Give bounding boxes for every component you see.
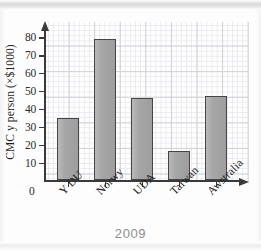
y-axis-title: CMC y person (×$1000)	[4, 22, 20, 182]
y-tick-label-50: 50	[25, 85, 36, 97]
y-tick-10	[39, 163, 45, 164]
scan-bottom-edge-band	[0, 243, 261, 250]
y-tick-80	[39, 37, 45, 38]
y-tick-50	[39, 91, 45, 92]
y-axis-arrowhead	[41, 21, 49, 31]
y-tick-30	[39, 127, 45, 128]
chart-caption: 2009	[0, 226, 261, 241]
scan-right-edge-band	[255, 9, 261, 241]
y-tick-label-70: 70	[25, 49, 36, 61]
y-tick-label-20: 20	[25, 138, 36, 150]
y-tick-label-60: 60	[25, 67, 36, 79]
y-tick-label-10: 10	[25, 156, 36, 168]
y-axis-line	[44, 30, 46, 182]
bar-norwy	[94, 39, 116, 180]
y-tick-70	[39, 55, 45, 56]
bar-awstralia	[205, 96, 227, 180]
bar-uda	[131, 98, 153, 180]
bar-chart-plot-area: 01020304050607080 Y DUNorwyUDATaiwanAwst…	[44, 22, 249, 182]
y-tick-label-30: 30	[25, 121, 36, 133]
y-tick-label-40: 40	[25, 103, 36, 115]
y-tick-40	[39, 109, 45, 110]
y-tick-label-0: 0	[29, 185, 35, 197]
y-tick-label-80: 80	[25, 31, 36, 43]
scan-top-edge-band	[0, 0, 261, 9]
y-tick-20	[39, 145, 45, 146]
x-axis-arrowhead	[239, 178, 249, 186]
y-tick-60	[39, 73, 45, 74]
